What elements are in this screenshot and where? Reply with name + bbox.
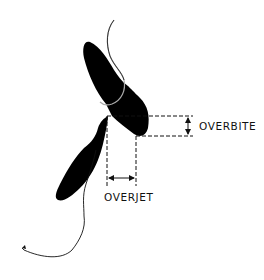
lower-incisor — [56, 116, 108, 200]
upper-incisor — [83, 42, 148, 136]
overbite-label: OVERBITE — [199, 120, 256, 132]
overjet-label: OVERJET — [104, 191, 154, 203]
overbite-overjet-diagram: OVERBITE OVERJET — [0, 0, 264, 280]
